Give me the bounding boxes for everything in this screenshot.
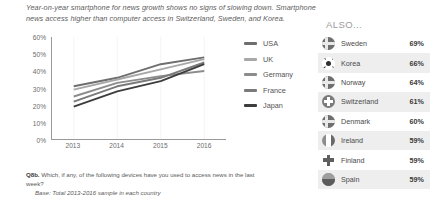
gridlines bbox=[74, 37, 205, 139]
country-name: Sweden bbox=[341, 39, 410, 48]
legend-item[interactable]: France bbox=[244, 83, 314, 99]
line-chart: 0%10%20%30%40%50%60% 2013201420152016 bbox=[18, 33, 226, 158]
plot-area bbox=[51, 37, 226, 140]
y-tick-label: 0% bbox=[36, 137, 46, 144]
switzerland-flag-icon bbox=[322, 95, 335, 108]
y-tick-label: 10% bbox=[33, 119, 46, 126]
country-name: Switzerland bbox=[341, 97, 410, 106]
legend-label: USA bbox=[263, 39, 278, 48]
x-tick-label: 2016 bbox=[197, 142, 212, 149]
legend-swatch-icon bbox=[244, 73, 257, 76]
norway-flag-icon bbox=[322, 76, 335, 89]
country-value: 60% bbox=[410, 117, 424, 126]
country-value: 69% bbox=[410, 39, 424, 48]
country-row[interactable]: Korea66% bbox=[318, 53, 430, 72]
legend-label: Japan bbox=[263, 101, 283, 110]
x-tick-label: 2013 bbox=[66, 142, 81, 149]
country-ranking-list: Sweden69%Korea66%Norway64%Switzerland61%… bbox=[318, 34, 430, 189]
country-row[interactable]: Norway64% bbox=[318, 73, 430, 92]
x-axis-labels: 2013201420152016 bbox=[51, 142, 226, 156]
korea-flag-icon bbox=[322, 57, 335, 70]
legend-swatch-icon bbox=[244, 42, 257, 45]
footnote-base: Base: Total 2013-2016 sample in each cou… bbox=[35, 188, 266, 197]
x-tick-label: 2015 bbox=[153, 142, 168, 149]
country-value: 61% bbox=[410, 97, 424, 106]
legend-swatch-icon bbox=[244, 104, 257, 107]
x-tick-label: 2014 bbox=[109, 142, 124, 149]
country-name: Denmark bbox=[341, 117, 410, 126]
finland-flag-icon bbox=[322, 154, 335, 167]
country-name: Korea bbox=[341, 59, 410, 68]
infographic-slide: Year-on-year smartphone for news growth … bbox=[0, 0, 435, 208]
country-value: 59% bbox=[410, 136, 424, 145]
country-row[interactable]: Finland59% bbox=[318, 150, 430, 169]
headline-text: Year-on-year smartphone for news growth … bbox=[26, 3, 326, 24]
legend-label: UK bbox=[263, 55, 273, 64]
y-tick-label: 50% bbox=[33, 51, 46, 58]
y-tick-label: 20% bbox=[33, 102, 46, 109]
denmark-flag-icon bbox=[322, 115, 335, 128]
y-tick-label: 60% bbox=[33, 34, 46, 41]
legend-label: France bbox=[263, 86, 286, 95]
question-label: Q8b. bbox=[26, 171, 40, 178]
legend-item[interactable]: USA bbox=[244, 36, 314, 52]
country-row[interactable]: Spain59% bbox=[318, 170, 430, 189]
legend-swatch-icon bbox=[244, 58, 257, 61]
legend-swatch-icon bbox=[244, 89, 257, 92]
footnote-question: Q8b. Which, if any, of the following dev… bbox=[26, 170, 266, 188]
also-heading: ALSO... bbox=[326, 19, 362, 30]
y-tick-label: 40% bbox=[33, 68, 46, 75]
series-lines bbox=[74, 57, 205, 106]
question-text: Which, if any, of the following devices … bbox=[26, 171, 255, 187]
country-row[interactable]: Sweden69% bbox=[318, 34, 430, 53]
country-row[interactable]: Ireland59% bbox=[318, 131, 430, 150]
series-line-uk bbox=[74, 59, 205, 90]
spain-flag-icon bbox=[322, 173, 335, 186]
country-name: Spain bbox=[341, 175, 410, 184]
y-tick-label: 30% bbox=[33, 85, 46, 92]
legend-item[interactable]: Germany bbox=[244, 67, 314, 83]
footnote: Q8b. Which, if any, of the following dev… bbox=[26, 170, 266, 197]
country-name: Norway bbox=[341, 78, 410, 87]
legend-item[interactable]: UK bbox=[244, 52, 314, 68]
y-axis-labels: 0%10%20%30%40%50%60% bbox=[18, 33, 48, 158]
country-value: 64% bbox=[410, 78, 424, 87]
country-name: Finland bbox=[341, 156, 410, 165]
sweden-flag-icon bbox=[322, 37, 335, 50]
country-row[interactable]: Switzerland61% bbox=[318, 92, 430, 111]
country-value: 59% bbox=[410, 156, 424, 165]
chart-legend: USAUKGermanyFranceJapan bbox=[244, 36, 314, 114]
chart-svg bbox=[52, 37, 226, 139]
ireland-flag-icon bbox=[322, 134, 335, 147]
legend-label: Germany bbox=[263, 70, 293, 79]
country-name: Ireland bbox=[341, 136, 410, 145]
country-value: 66% bbox=[410, 59, 424, 68]
country-value: 59% bbox=[410, 175, 424, 184]
country-row[interactable]: Denmark60% bbox=[318, 112, 430, 131]
legend-item[interactable]: Japan bbox=[244, 98, 314, 114]
